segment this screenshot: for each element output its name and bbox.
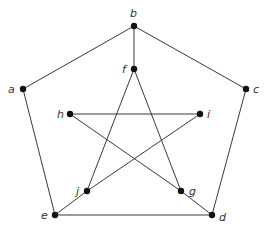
- node-label-j: j: [74, 185, 80, 198]
- node-c: [243, 86, 249, 92]
- node-i: [197, 111, 203, 117]
- edge-h-g: [70, 114, 181, 191]
- node-d: [209, 212, 215, 218]
- node-label-a: a: [8, 83, 15, 96]
- edge-f-j: [87, 69, 134, 191]
- node-j: [84, 188, 90, 194]
- node-label-d: d: [219, 211, 227, 224]
- node-f: [131, 66, 137, 72]
- edge-b-c: [134, 26, 246, 89]
- node-label-f: f: [122, 63, 128, 76]
- edge-c-d: [212, 89, 246, 215]
- node-label-c: c: [253, 83, 259, 96]
- edge-e-a: [23, 89, 55, 215]
- edge-f-g: [134, 69, 181, 191]
- edge-j-e: [55, 191, 87, 215]
- node-label-b: b: [130, 7, 137, 20]
- node-label-i: i: [207, 108, 210, 121]
- node-a: [20, 86, 26, 92]
- node-e: [52, 212, 58, 218]
- node-g: [178, 188, 184, 194]
- node-b: [131, 23, 137, 29]
- petersen-graph: abcdefghij: [0, 0, 270, 227]
- edge-a-b: [23, 26, 134, 89]
- edge-g-d: [181, 191, 212, 215]
- node-h: [67, 111, 73, 117]
- node-label-h: h: [57, 108, 64, 121]
- edge-i-j: [87, 114, 200, 191]
- node-label-g: g: [189, 185, 196, 198]
- node-label-e: e: [41, 209, 48, 222]
